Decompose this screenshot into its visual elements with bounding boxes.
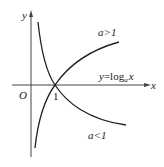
log-function-graph: y x O 1 a>1 a<1 y=logax: [0, 0, 164, 167]
origin-label: O: [19, 89, 27, 101]
y-axis-label: y: [21, 9, 27, 21]
y-axis-arrow-icon: [29, 10, 33, 17]
intersection-point: [54, 84, 56, 86]
function-label-sub: a: [124, 76, 128, 84]
x-axis-label: x: [150, 79, 156, 91]
series-label-a-gt-1: a>1: [98, 26, 116, 38]
series-label-a-lt-1: a<1: [88, 129, 106, 141]
tick-label-1: 1: [53, 90, 59, 102]
function-label: y=logax: [98, 70, 134, 84]
function-label-x: x: [128, 70, 134, 82]
function-label-eq: =log: [104, 70, 125, 82]
x-axis-arrow-icon: [144, 83, 151, 87]
